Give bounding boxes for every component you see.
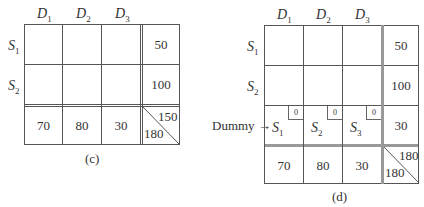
- demand-d1: 70: [25, 118, 62, 134]
- col-header-d2: D2: [76, 6, 91, 24]
- supply-total: 150: [158, 109, 178, 125]
- row-label-s2: S2: [8, 78, 20, 96]
- caption-d: (d): [332, 189, 347, 205]
- dummy-cell-s3: S3: [350, 120, 362, 138]
- supply-total: 180: [399, 148, 419, 164]
- col-header-d3: D3: [115, 6, 130, 24]
- demand-total: 180: [144, 126, 164, 142]
- row-label-s1: S1: [8, 38, 20, 56]
- col-header-d1: D1: [37, 6, 52, 24]
- col-header-d3: D3: [355, 7, 370, 25]
- cost-box: 0: [327, 106, 342, 120]
- demand-d1: 70: [265, 158, 303, 174]
- supply-s1: 50: [384, 38, 418, 54]
- supply-s1: 50: [143, 37, 179, 53]
- demand-d2: 80: [63, 118, 101, 134]
- supply-s2: 100: [143, 77, 179, 93]
- supply-s2: 100: [384, 78, 418, 94]
- col-header-d1: D1: [277, 7, 292, 25]
- dummy-cell-s1: S1: [272, 120, 284, 138]
- row-label-s1: S1: [247, 39, 259, 57]
- caption-c: (c): [85, 151, 99, 167]
- col-header-d2: D2: [316, 7, 331, 25]
- grid-line: [24, 64, 180, 65]
- demand-d3: 30: [102, 118, 140, 134]
- grid-line: [140, 24, 141, 145]
- dummy-label: Dummy →: [212, 118, 271, 134]
- dummy-cell-s2: S2: [311, 120, 323, 138]
- grid-line: [24, 104, 180, 105]
- demand-d2: 80: [304, 158, 342, 174]
- supply-dummy: 30: [384, 118, 418, 134]
- row-label-s2: S2: [247, 79, 259, 97]
- grid-line: [24, 24, 180, 25]
- demand-d3: 30: [343, 158, 381, 174]
- demand-total: 180: [385, 165, 405, 181]
- cost-box: 0: [366, 106, 381, 120]
- cost-box: 0: [288, 106, 303, 120]
